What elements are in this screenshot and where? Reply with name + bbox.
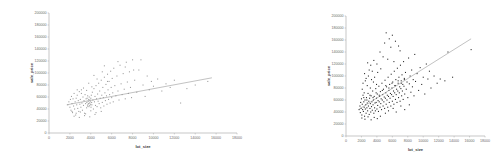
data-point bbox=[387, 59, 388, 60]
data-point bbox=[90, 104, 91, 105]
data-point bbox=[81, 89, 82, 90]
data-point bbox=[131, 97, 132, 98]
y-axis-title: sale_price bbox=[29, 62, 34, 83]
data-point bbox=[109, 81, 110, 82]
data-point bbox=[402, 84, 403, 85]
data-point bbox=[81, 93, 82, 94]
x-tick-label: 0 bbox=[345, 139, 347, 143]
data-point bbox=[126, 62, 127, 63]
data-point bbox=[82, 110, 83, 111]
data-point bbox=[401, 74, 402, 75]
data-point bbox=[407, 82, 408, 83]
data-point bbox=[400, 50, 401, 51]
data-point bbox=[374, 103, 375, 104]
data-point bbox=[375, 110, 376, 111]
data-point bbox=[379, 101, 380, 102]
data-point bbox=[373, 82, 374, 83]
y-tick-label: 80000 bbox=[333, 86, 343, 90]
data-point bbox=[70, 99, 71, 100]
data-point bbox=[106, 104, 107, 105]
data-point bbox=[397, 91, 398, 92]
data-point bbox=[396, 112, 397, 113]
data-point bbox=[368, 106, 369, 107]
data-point bbox=[401, 95, 402, 96]
data-point bbox=[380, 103, 381, 104]
data-point bbox=[400, 106, 401, 107]
data-point bbox=[388, 88, 389, 89]
data-point bbox=[400, 101, 401, 102]
data-point bbox=[368, 101, 369, 102]
data-point bbox=[371, 119, 372, 120]
data-point bbox=[383, 56, 384, 57]
data-point bbox=[452, 77, 453, 78]
data-point bbox=[97, 79, 98, 80]
data-point bbox=[95, 105, 96, 106]
data-point bbox=[94, 96, 95, 97]
data-point bbox=[91, 95, 92, 96]
data-point bbox=[79, 104, 80, 105]
x-tick-label: 4000 bbox=[87, 136, 95, 140]
data-point bbox=[108, 89, 109, 90]
data-point bbox=[76, 104, 77, 105]
data-point bbox=[195, 85, 196, 86]
x-axis-title: lot_size bbox=[135, 144, 151, 149]
data-point bbox=[393, 96, 394, 97]
y-axis-title: sale_price bbox=[326, 65, 331, 86]
data-point bbox=[104, 92, 105, 93]
data-point bbox=[88, 103, 89, 104]
data-point bbox=[94, 101, 95, 102]
data-point bbox=[89, 105, 90, 106]
data-point bbox=[386, 104, 387, 105]
data-point bbox=[93, 109, 94, 110]
figure-canvas: 0200004000060000800001000001200001400001… bbox=[0, 0, 496, 167]
data-point bbox=[369, 95, 370, 96]
y-tick-label: 0 bbox=[341, 134, 343, 138]
data-point bbox=[370, 88, 371, 89]
data-point bbox=[105, 100, 106, 101]
x-tick-label: 14000 bbox=[190, 136, 200, 140]
data-point bbox=[120, 65, 121, 66]
data-point bbox=[384, 43, 385, 44]
data-point bbox=[385, 85, 386, 86]
data-point bbox=[369, 70, 370, 71]
x-tick-label: 6000 bbox=[388, 139, 396, 143]
data-point bbox=[125, 98, 126, 99]
y-tick-label: 40000 bbox=[333, 110, 343, 114]
x-tick-label: 0 bbox=[48, 136, 50, 140]
data-point bbox=[207, 81, 208, 82]
data-point bbox=[91, 102, 92, 103]
x-tick-label: 8000 bbox=[129, 136, 137, 140]
data-point bbox=[140, 59, 141, 60]
data-point bbox=[372, 91, 373, 92]
data-point bbox=[429, 71, 430, 72]
trendline bbox=[358, 39, 471, 110]
data-point bbox=[374, 107, 375, 108]
data-point bbox=[112, 92, 113, 93]
data-point bbox=[85, 103, 86, 104]
data-point bbox=[391, 94, 392, 95]
data-point bbox=[421, 84, 422, 85]
data-point bbox=[393, 61, 394, 62]
data-point bbox=[109, 94, 110, 95]
x-tick-label: 6000 bbox=[108, 136, 116, 140]
data-point bbox=[76, 113, 77, 114]
data-point bbox=[85, 94, 86, 95]
data-points-group bbox=[67, 59, 208, 118]
data-point bbox=[385, 113, 386, 114]
data-points-group bbox=[359, 32, 472, 120]
data-point bbox=[393, 104, 394, 105]
data-point bbox=[101, 95, 102, 96]
data-point bbox=[437, 83, 438, 84]
data-point bbox=[129, 71, 130, 72]
data-point bbox=[365, 80, 366, 81]
data-point bbox=[369, 114, 370, 115]
data-point bbox=[77, 95, 78, 96]
data-point bbox=[389, 84, 390, 85]
data-point bbox=[98, 83, 99, 84]
data-point bbox=[93, 88, 94, 89]
data-point bbox=[390, 47, 391, 48]
x-tick-label: 16000 bbox=[465, 139, 475, 143]
y-tick-label: 60000 bbox=[36, 95, 46, 99]
scatter-plot-right: 0200004000060000800001000001200001400001… bbox=[248, 0, 496, 167]
data-point bbox=[391, 74, 392, 75]
